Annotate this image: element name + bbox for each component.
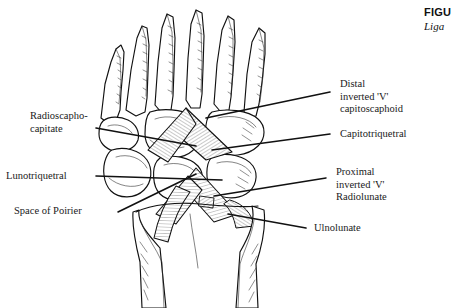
label-radioscaphocapitate-line1: Radioscapho- xyxy=(30,110,88,123)
label-space-of-poirier: Space of Poirier xyxy=(14,205,82,218)
illustration-artwork xyxy=(96,10,330,308)
label-lunotriquetral: Lunotriquetral xyxy=(6,170,67,183)
label-space-of-poirier-line1: Space of Poirier xyxy=(14,205,82,218)
label-ulnolunate: Ulnolunate xyxy=(314,222,361,235)
label-proximal-inverted-v-line2: inverted 'V' xyxy=(336,179,387,192)
label-proximal-inverted-v-line3: Radiolunate xyxy=(336,191,387,204)
label-radioscaphocapitate-line2: capitate xyxy=(30,123,88,136)
label-ulnolunate-line1: Ulnolunate xyxy=(314,222,361,235)
figure-legend: Liga xyxy=(424,20,464,34)
wrist-ligament-illustration xyxy=(0,0,464,308)
label-capitotriquetral-line1: Capitotriquetral xyxy=(340,128,406,141)
label-proximal-inverted-v: Proximal inverted 'V' Radiolunate xyxy=(336,166,387,204)
figure-caption: FIGU Liga xyxy=(424,6,464,34)
metacarpals-group xyxy=(101,10,265,123)
label-distal-inverted-v-line1: Distal xyxy=(340,78,403,91)
label-lunotriquetral-line1: Lunotriquetral xyxy=(6,170,67,183)
label-distal-inverted-v: Distal inverted 'V' capitoscaphoid xyxy=(340,78,403,116)
figure-number: FIGU xyxy=(424,6,464,20)
label-distal-inverted-v-line3: capitoscaphoid xyxy=(340,103,403,116)
figure-page: FIGU Liga Radioscapho- capitate Lunotriq… xyxy=(0,0,464,308)
label-capitotriquetral: Capitotriquetral xyxy=(340,128,406,141)
label-radioscaphocapitate: Radioscapho- capitate xyxy=(30,110,88,135)
label-distal-inverted-v-line2: inverted 'V' xyxy=(340,91,403,104)
label-proximal-inverted-v-line1: Proximal xyxy=(336,166,387,179)
